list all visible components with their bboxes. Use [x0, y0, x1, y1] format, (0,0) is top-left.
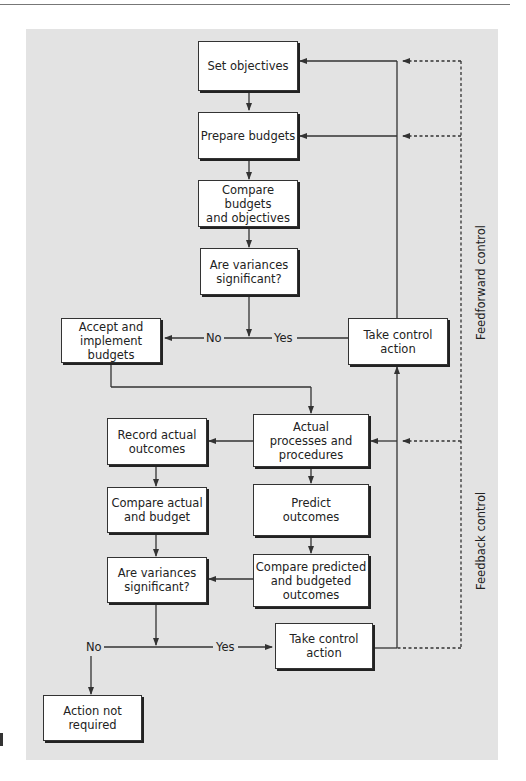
box-compare-actual-budget: Compare actual and budget: [107, 487, 207, 533]
label-no-2: No: [84, 640, 104, 654]
box-take-control-action-2: Take control action: [275, 623, 373, 669]
box-prepare-budgets: Prepare budgets: [198, 112, 298, 159]
label-yes-1: Yes: [272, 331, 295, 345]
box-variances-significant-2: Are variances significant?: [107, 557, 207, 603]
box-predict-outcomes: Predict outcomes: [253, 484, 369, 536]
box-compare-budgets-objectives: Compare budgets and objectives: [198, 180, 298, 227]
box-accept-implement-budgets: Accept and implement budgets: [61, 318, 161, 363]
box-action-not-required: Action not required: [43, 695, 142, 741]
box-variances-significant-1: Are variances significant?: [200, 248, 298, 295]
box-set-objectives: Set objectives: [198, 41, 298, 91]
label-feedforward-control: Feedforward control: [474, 225, 488, 340]
box-take-control-action-1: Take control action: [348, 318, 448, 365]
label-no-1: No: [204, 331, 224, 345]
label-yes-2: Yes: [214, 640, 237, 654]
label-feedback-control: Feedback control: [474, 492, 488, 590]
box-record-actual-outcomes: Record actual outcomes: [107, 418, 207, 465]
box-compare-predicted-budgeted: Compare predicted and budgeted outcomes: [253, 554, 369, 607]
box-actual-processes: Actual processes and procedures: [253, 414, 369, 467]
